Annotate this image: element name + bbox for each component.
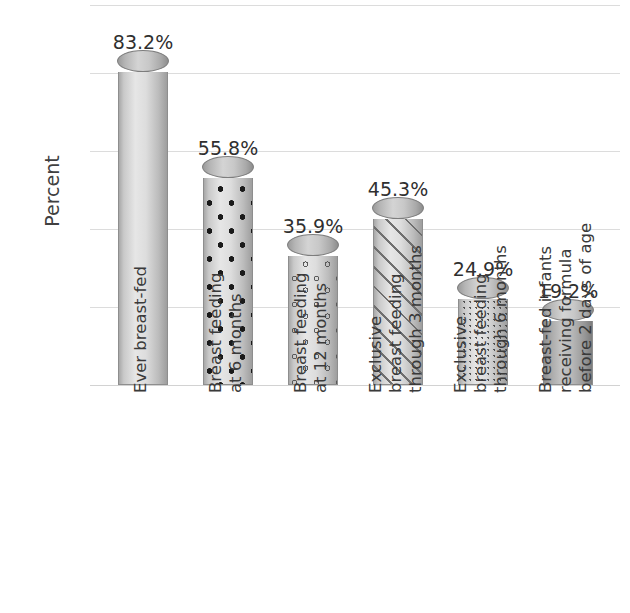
bar-cap-ellipse xyxy=(202,156,254,178)
gridline-60 xyxy=(90,151,620,152)
x-label-line: breast feeding xyxy=(386,245,406,393)
bar-cap-ellipse xyxy=(372,197,424,219)
x-label-exclusive-3-months: Exclusive breast feeding through 3 month… xyxy=(366,245,426,393)
x-label-line: receiving formula xyxy=(556,223,576,393)
x-label-line: Breast feeding xyxy=(291,273,311,393)
bar-chart: Percent 0 20 40 60 80 83.2% 55.8% xyxy=(0,0,630,613)
y-axis-title: Percent xyxy=(41,131,63,251)
x-label-line: through 3 months xyxy=(406,245,426,393)
gridline-100 xyxy=(90,5,620,6)
x-label-breastfeeding-6-months: Breast feeding at 6 months xyxy=(206,273,246,393)
x-label-ever-breast-fed: Ever breast-fed xyxy=(131,266,151,393)
x-label-breastfeeding-12-months: Breast feeding at 12 months xyxy=(291,273,331,393)
x-label-line: at 6 months xyxy=(226,273,246,393)
x-label-exclusive-6-months: Exclusive breast feeding through 6 month… xyxy=(451,245,511,393)
x-label-line: Breast-fed infants xyxy=(536,223,556,393)
x-label-line: at 12 months xyxy=(311,273,331,393)
x-label-line: before 2 days of age xyxy=(576,223,596,393)
x-label-line: Ever breast-fed xyxy=(131,266,151,393)
x-label-line: through 6 months xyxy=(491,245,511,393)
gridline-80 xyxy=(90,73,620,74)
bar-cap-ellipse xyxy=(117,50,169,72)
bar-cap-ellipse xyxy=(287,234,339,256)
x-label-line: breast feeding xyxy=(471,245,491,393)
x-label-line: Exclusive xyxy=(451,245,471,393)
x-label-line: Exclusive xyxy=(366,245,386,393)
x-label-formula-before-2-days: Breast-fed infants receiving formula bef… xyxy=(536,223,596,393)
x-label-line: Breast feeding xyxy=(206,273,226,393)
